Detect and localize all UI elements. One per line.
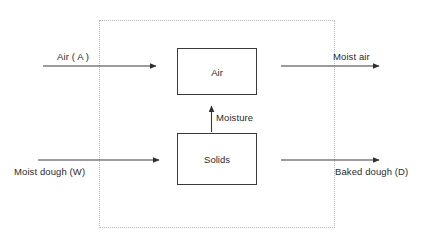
stream-label-moist-dough-in: Moist dough (W)	[14, 166, 85, 177]
stream-label-air-in: Air ( A )	[57, 51, 89, 62]
block-air: Air	[177, 48, 257, 95]
stream-label-moisture-transfer: Moisture	[216, 112, 253, 123]
block-air-label: Air	[178, 66, 256, 77]
block-solids-label: Solids	[178, 154, 256, 165]
stream-label-baked-dough-out: Baked dough (D)	[335, 166, 408, 177]
block-solids: Solids	[177, 133, 257, 185]
process-flow-diagram: Air Solids Air ( A ) Moist air Moisture …	[0, 0, 439, 243]
stream-label-moist-air-out: Moist air	[333, 51, 370, 62]
